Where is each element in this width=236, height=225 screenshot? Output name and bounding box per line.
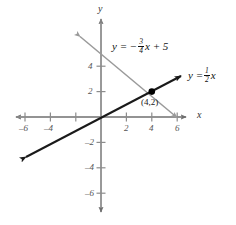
y-tick-label-neg4: –4: [85, 163, 94, 172]
coordinate-plane-figure: x y –6 –4 2 4 6 4 2 –2 –4 –6 y = −34x + …: [0, 0, 236, 225]
x-tick-label-2: 2: [124, 124, 129, 133]
gray-eq-lhs: y: [112, 41, 117, 52]
x-axis-label: x: [197, 110, 201, 120]
intersection-point-label: (4,2): [141, 98, 158, 107]
y-tick-label-neg2: –2: [85, 138, 94, 147]
y-axis-label: y: [98, 4, 102, 14]
gray-line-equation-label: y = −34x + 5: [112, 38, 168, 54]
x-tick-label-6: 6: [175, 124, 180, 133]
black-eq-equals: =: [196, 70, 203, 81]
gray-eq-plus: +: [153, 41, 160, 52]
x-tick-label-neg6: –6: [19, 124, 28, 133]
y-tick-label-2: 2: [88, 87, 93, 96]
black-eq-denominator: 2: [204, 75, 210, 84]
black-line-equation-label: y =12x: [188, 67, 216, 83]
gray-eq-equals: =: [120, 41, 127, 52]
gray-eq-numerator: 3: [138, 38, 144, 46]
x-tick-label-neg4: –4: [44, 124, 53, 133]
intersection-point: [149, 88, 156, 95]
gray-eq-fraction: 34: [138, 38, 144, 54]
x-tick-label-4: 4: [149, 124, 154, 133]
black-eq-variable: x: [211, 70, 216, 81]
y-tick-label-4: 4: [88, 62, 93, 71]
black-eq-numerator: 1: [204, 67, 210, 75]
gray-eq-variable: x: [145, 41, 150, 52]
gray-eq-sign: −: [130, 41, 137, 52]
y-tick-label-neg6: –6: [85, 189, 94, 198]
black-eq-fraction: 12: [204, 67, 210, 83]
gray-eq-intercept: 5: [163, 41, 169, 52]
gray-eq-denominator: 4: [138, 46, 144, 55]
black-eq-lhs: y: [188, 70, 193, 81]
